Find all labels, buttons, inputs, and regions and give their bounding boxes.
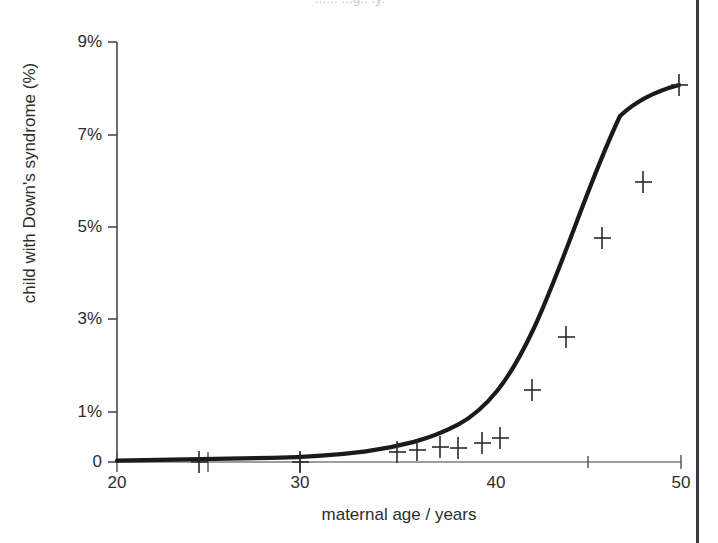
- y-tick-label-3: 3%: [40, 309, 102, 329]
- y-tick-label-7: 7%: [40, 125, 102, 145]
- y-tick-label-5: 5%: [40, 217, 102, 237]
- x-tick-label-20: 20: [87, 473, 147, 493]
- x-tick-label-30: 30: [270, 473, 330, 493]
- chart-page: ...... ...g.. .y.: [0, 0, 718, 543]
- chart-plot-area: [0, 0, 718, 543]
- y-tick-label-0: 0: [40, 452, 102, 472]
- y-tick-label-1: 1%: [40, 402, 102, 422]
- x-axis-title: maternal age / years: [117, 505, 681, 525]
- y-tick-marks: [108, 42, 117, 462]
- y-axis-title-text: child with Down's syndrome (%): [20, 63, 39, 303]
- page-margin-area: [699, 0, 718, 543]
- fitted-curve: [117, 85, 679, 461]
- y-axis-title: child with Down's syndrome (%): [20, 0, 46, 373]
- x-tick-label-40: 40: [466, 473, 526, 493]
- y-tick-label-9: 9%: [40, 32, 102, 52]
